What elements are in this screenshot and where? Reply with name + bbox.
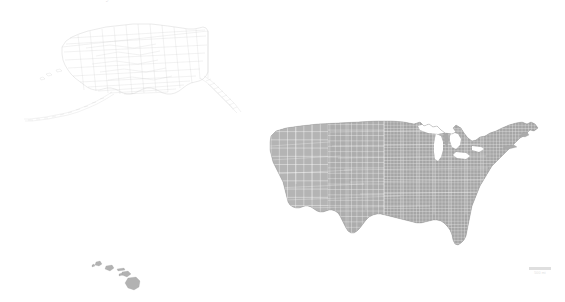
alaska-inset[interactable] — [24, 24, 241, 121]
map-figure: State Boundaries and County Subdivisions — [0, 0, 565, 302]
scale-bar: 500 mi — [529, 267, 551, 275]
contiguous-us-map[interactable] — [260, 112, 560, 257]
map-canvas[interactable] — [0, 0, 565, 302]
scale-bar-line — [529, 267, 551, 270]
hawaii-inset[interactable] — [92, 261, 140, 290]
scale-bar-label: 500 mi — [534, 271, 546, 275]
alaska-panhandle — [200, 76, 241, 113]
